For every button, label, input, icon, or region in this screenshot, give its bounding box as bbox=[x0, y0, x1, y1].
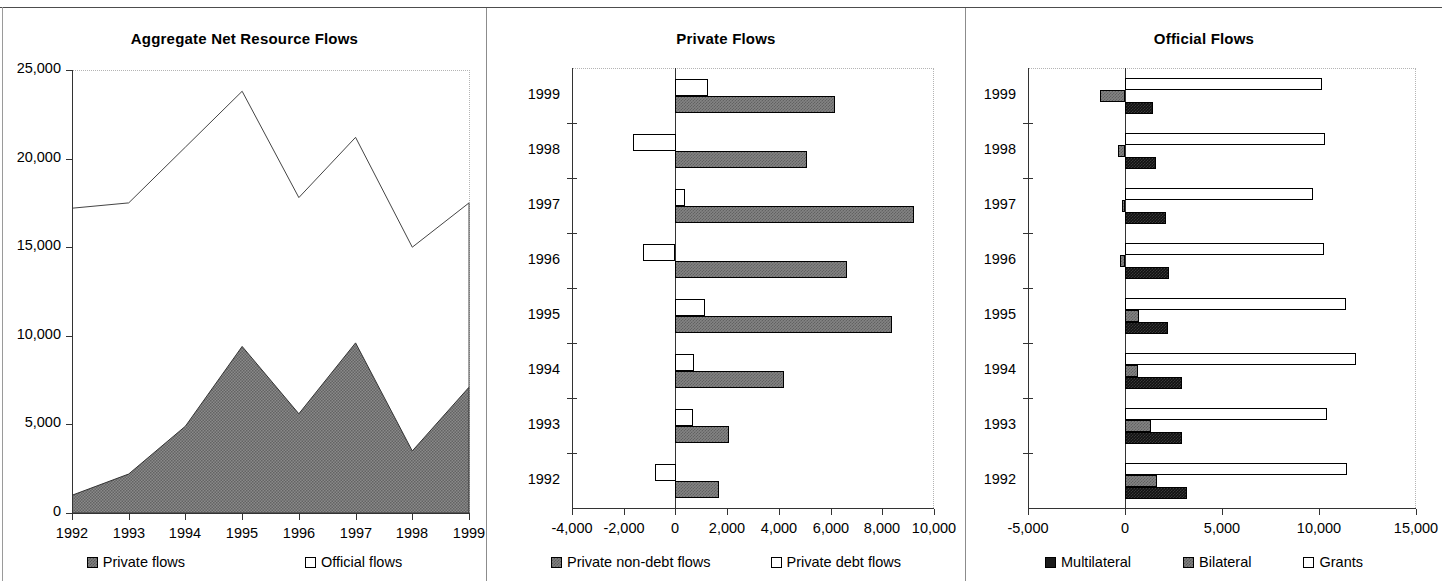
official-x-tick-label: -5,000 bbox=[983, 520, 1073, 536]
official-category-label: 1994 bbox=[966, 361, 1016, 377]
official-bar-1995-multilateral bbox=[1125, 322, 1168, 334]
official-category-tick bbox=[1023, 398, 1033, 399]
private-category-label: 1992 bbox=[487, 471, 560, 487]
three-panel-chart-figure: Aggregate Net Resource Flows 05,00010,00… bbox=[0, 0, 1442, 581]
private-category-tick bbox=[567, 453, 577, 454]
official-x-tick bbox=[1222, 509, 1223, 515]
official-bar-1996-bilateral bbox=[1120, 255, 1125, 267]
legend-label: Private non-debt flows bbox=[567, 554, 710, 570]
private-bar-1995-private-non-debt-flows bbox=[675, 316, 892, 333]
legend-label: Bilateral bbox=[1199, 554, 1251, 570]
private-legend: Private non-debt flowsPrivate debt flows bbox=[487, 554, 965, 570]
official-bar-1999-multilateral bbox=[1125, 102, 1153, 114]
panel-official-flows: Official Flows 1992199319941995199619971… bbox=[966, 8, 1442, 581]
aggregate-chart-title: Aggregate Net Resource Flows bbox=[3, 30, 486, 47]
private-chart-title: Private Flows bbox=[487, 30, 965, 47]
official-bar-1992-bilateral bbox=[1125, 475, 1157, 487]
private-x-tick bbox=[831, 509, 832, 515]
gray-hatch-swatch bbox=[551, 557, 562, 568]
aggregate-x-tick bbox=[185, 514, 186, 520]
official-x-tick-label: 5,000 bbox=[1177, 520, 1267, 536]
private-bar-1997-private-non-debt-flows bbox=[675, 206, 914, 223]
official-bar-1998-grants bbox=[1125, 133, 1325, 145]
official-x-tick bbox=[1319, 509, 1320, 515]
official-legend: MultilateralBilateralGrants bbox=[966, 554, 1442, 570]
official-bar-1993-grants bbox=[1125, 408, 1327, 420]
aggregate-x-tick-label: 1998 bbox=[382, 525, 442, 541]
official-bar-1994-multilateral bbox=[1125, 377, 1182, 389]
official-x-tick bbox=[1028, 509, 1029, 515]
official-category-tick bbox=[1023, 343, 1033, 344]
white-swatch bbox=[771, 557, 782, 568]
official-category-tick bbox=[1023, 123, 1033, 124]
aggregate-x-tick bbox=[242, 514, 243, 520]
gray-hatch-swatch bbox=[1183, 557, 1194, 568]
aggregate-y-tick bbox=[66, 70, 72, 71]
aggregate-x-tick bbox=[72, 514, 73, 520]
legend-label: Grants bbox=[1319, 554, 1363, 570]
private-bar-1994-private-debt-flows bbox=[675, 354, 694, 371]
official-category-tick bbox=[1023, 178, 1033, 179]
official-category-label: 1998 bbox=[966, 141, 1016, 157]
official-bar-1999-bilateral bbox=[1100, 90, 1125, 102]
aggregate-x-axis-line bbox=[72, 513, 470, 514]
private-x-tick bbox=[727, 509, 728, 515]
private-x-tick bbox=[934, 509, 935, 515]
panel-private-flows: Private Flows 19921993199419951996199719… bbox=[487, 8, 965, 581]
private-category-tick bbox=[567, 233, 577, 234]
private-x-tick bbox=[779, 509, 780, 515]
legend-entry-1: Private debt flows bbox=[771, 554, 901, 570]
gray-hatch-swatch bbox=[87, 557, 98, 568]
official-bar-1997-multilateral bbox=[1125, 212, 1166, 224]
official-x-tick-label: 0 bbox=[1080, 520, 1170, 536]
aggregate-y-tick-label: 25,000 bbox=[3, 60, 61, 76]
aggregate-x-tick bbox=[469, 514, 470, 520]
legend-label: Private flows bbox=[103, 554, 185, 570]
aggregate-x-tick-label: 1994 bbox=[155, 525, 215, 541]
aggregate-y-tick-label: 15,000 bbox=[3, 237, 61, 253]
private-bar-1992-private-non-debt-flows bbox=[675, 481, 719, 498]
white-swatch bbox=[305, 557, 316, 568]
aggregate-x-tick-label: 1996 bbox=[269, 525, 329, 541]
aggregate-x-tick bbox=[299, 514, 300, 520]
official-bar-1993-multilateral bbox=[1125, 432, 1182, 444]
black-swatch bbox=[1045, 557, 1056, 568]
private-bar-1999-private-debt-flows bbox=[675, 79, 708, 96]
aggregate-x-tick bbox=[412, 514, 413, 520]
private-category-label: 1996 bbox=[487, 251, 560, 267]
official-x-tick bbox=[1125, 509, 1126, 515]
official-category-label: 1993 bbox=[966, 416, 1016, 432]
private-category-label: 1999 bbox=[487, 86, 560, 102]
aggregate-x-tick-label: 1992 bbox=[42, 525, 102, 541]
aggregate-x-tick-label: 1995 bbox=[212, 525, 272, 541]
private-bar-1998-private-non-debt-flows bbox=[675, 151, 807, 168]
aggregate-y-tick-label: 10,000 bbox=[3, 326, 61, 342]
official-flows-total-line bbox=[72, 91, 469, 247]
private-x-axis-line bbox=[572, 508, 934, 509]
private-bar-1999-private-non-debt-flows bbox=[675, 96, 835, 113]
private-category-label: 1994 bbox=[487, 361, 560, 377]
official-bar-1996-grants bbox=[1125, 243, 1324, 255]
white-swatch bbox=[1303, 557, 1314, 568]
legend-entry-1: Official flows bbox=[305, 554, 402, 570]
private-category-tick bbox=[567, 288, 577, 289]
legend-entry-1: Bilateral bbox=[1183, 554, 1251, 570]
legend-label: Multilateral bbox=[1061, 554, 1131, 570]
official-chart-title: Official Flows bbox=[966, 30, 1442, 47]
official-category-label: 1992 bbox=[966, 471, 1016, 487]
private-category-label: 1998 bbox=[487, 141, 560, 157]
official-category-label: 1996 bbox=[966, 251, 1016, 267]
private-bar-1994-private-non-debt-flows bbox=[675, 371, 784, 388]
official-category-label: 1997 bbox=[966, 196, 1016, 212]
official-bar-1999-grants bbox=[1125, 78, 1322, 90]
private-bar-1997-private-debt-flows bbox=[675, 189, 685, 206]
private-category-tick bbox=[567, 123, 577, 124]
legend-entry-0: Private non-debt flows bbox=[551, 554, 710, 570]
aggregate-y-tick-label: 20,000 bbox=[3, 149, 61, 165]
official-bar-1998-multilateral bbox=[1125, 157, 1156, 169]
official-category-tick bbox=[1023, 453, 1033, 454]
aggregate-y-tick-label: 5,000 bbox=[3, 414, 61, 430]
private-x-tick bbox=[882, 509, 883, 515]
private-category-tick bbox=[567, 343, 577, 344]
panel-aggregate-net-resource-flows: Aggregate Net Resource Flows 05,00010,00… bbox=[3, 8, 486, 581]
